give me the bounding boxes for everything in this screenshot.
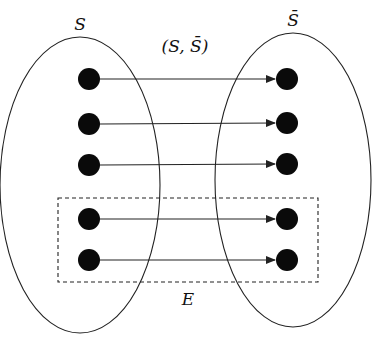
node-left — [78, 113, 100, 135]
node-right — [276, 153, 298, 175]
set-label-s: S — [74, 14, 86, 34]
node-right — [276, 249, 298, 271]
edge-set-dashed-box — [58, 198, 318, 282]
node-left — [78, 68, 100, 90]
node-right — [276, 68, 298, 90]
cut-diagram: S S̄ (S, S̄) E — [0, 0, 375, 343]
edge-arrow — [100, 123, 275, 124]
node-left — [78, 208, 100, 230]
edge-arrow — [100, 164, 275, 165]
node-right — [276, 208, 298, 230]
node-left — [78, 249, 100, 271]
set-label-s-bar: S̄ — [287, 9, 299, 30]
diagram-svg: S S̄ (S, S̄) E — [0, 0, 375, 343]
node-left — [78, 154, 100, 176]
node-right — [276, 112, 298, 134]
cut-label: (S, S̄) — [162, 35, 209, 56]
edge-set-label: E — [181, 289, 195, 309]
